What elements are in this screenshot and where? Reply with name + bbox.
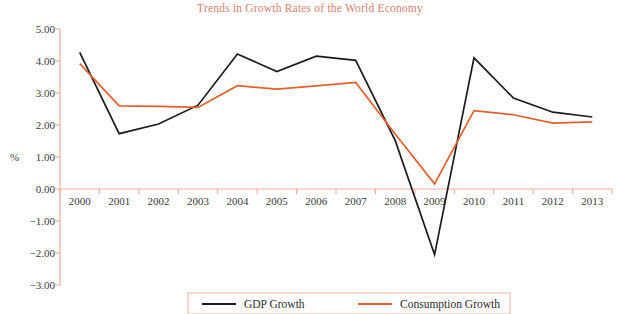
x-tick-label: 2011 [503, 195, 525, 207]
x-tick-label: 2013 [581, 195, 604, 207]
chart-background [0, 0, 620, 314]
y-axis-unit-label: % [10, 151, 19, 163]
legend-label: Consumption Growth [400, 298, 500, 311]
x-tick-label: 2003 [187, 195, 210, 207]
y-tick-label: 1.00 [36, 151, 56, 163]
x-tick-label: 2008 [384, 195, 407, 207]
x-tick-label: 2001 [108, 195, 130, 207]
chart-title: Trends in Growth Rates of the World Econ… [197, 2, 423, 15]
chart-container: Trends in Growth Rates of the World Econ… [0, 0, 620, 314]
legend-label: GDP Growth [244, 298, 305, 310]
y-tick-label: 2.00 [36, 119, 56, 131]
y-tick-label: 4.00 [36, 55, 56, 67]
x-tick-label: 2010 [463, 195, 486, 207]
x-tick-label: 2006 [305, 195, 328, 207]
y-tick-label: −3.00 [30, 279, 56, 291]
y-tick-label: −2.00 [30, 247, 56, 259]
y-tick-label: 5.00 [36, 23, 56, 35]
x-tick-label: 2004 [226, 195, 249, 207]
x-tick-label: 2009 [424, 195, 447, 207]
x-tick-label: 2002 [148, 195, 170, 207]
x-tick-label: 2012 [542, 195, 564, 207]
y-tick-label: −1.00 [30, 215, 56, 227]
y-tick-label: 0.00 [36, 183, 56, 195]
x-tick-label: 2005 [266, 195, 289, 207]
x-tick-label: 2007 [345, 195, 368, 207]
x-tick-label: 2000 [69, 195, 92, 207]
growth-rates-line-chart: Trends in Growth Rates of the World Econ… [0, 0, 620, 314]
y-tick-label: 3.00 [36, 87, 56, 99]
